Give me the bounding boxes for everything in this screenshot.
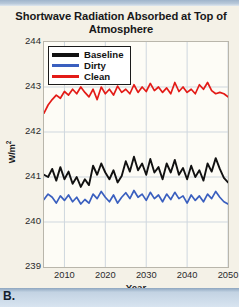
- y-axis-label-exponent: 2: [5, 141, 12, 145]
- legend-swatch-line-icon: [52, 53, 79, 57]
- y-axis-label-text: W/m: [7, 144, 17, 163]
- x-tick-label: 2020: [85, 270, 125, 281]
- x-tick-label: 2050: [208, 270, 239, 281]
- legend-item-label: Clean: [84, 71, 110, 82]
- figure-panel-b: Shortwave Radiation Absorbed at Top of A…: [0, 0, 239, 307]
- legend-item: Baseline: [52, 49, 127, 60]
- series-line-dirty: [44, 191, 228, 205]
- x-tick-label: 2010: [44, 270, 84, 281]
- y-tick-label: 240: [5, 216, 41, 226]
- legend-item-label: Dirty: [84, 60, 106, 71]
- legend-swatch-line-icon: [52, 75, 79, 78]
- y-axis-label: W/m2: [5, 129, 17, 175]
- page-bottom-strip: [0, 288, 239, 307]
- x-tick-label: 2030: [126, 270, 166, 281]
- chart-panel: Shortwave Radiation Absorbed at Top of A…: [0, 6, 239, 288]
- chart-title: Shortwave Radiation Absorbed at Top of A…: [14, 10, 228, 35]
- legend-swatch-line-icon: [52, 64, 79, 67]
- y-tick-label: 244: [5, 36, 41, 46]
- series-line-baseline: [44, 157, 228, 187]
- legend-item-label: Baseline: [84, 49, 123, 60]
- panel-label: B.: [3, 288, 15, 304]
- legend-item: Clean: [52, 71, 127, 82]
- legend-item: Dirty: [52, 60, 127, 71]
- y-tick-label: 243: [5, 81, 41, 91]
- x-tick-label: 2040: [167, 270, 207, 281]
- chart-legend: BaselineDirtyClean: [48, 46, 131, 85]
